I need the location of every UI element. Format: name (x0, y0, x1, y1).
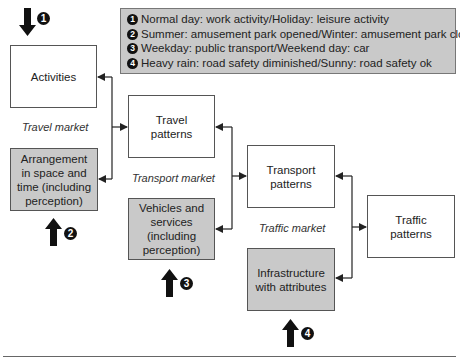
influence-arrow-1 (19, 8, 36, 36)
diagram-canvas: 1 2 3 4 1Normal day: work activity/Holid… (0, 0, 460, 362)
transport-patterns-box: Transport patterns (247, 145, 335, 208)
legend-item-2: 2Summer: amusement park opened/Winter: a… (127, 27, 449, 42)
influence-number-4: 4 (301, 327, 314, 340)
travel-market-label: Travel market (22, 121, 88, 133)
bottom-rule (3, 356, 456, 357)
traffic-patterns-box: Traffic patterns (367, 195, 455, 258)
traffic-market-label: Traffic market (259, 222, 325, 234)
infrastructure-box: Infrastructure with attributes (247, 248, 335, 311)
legend-item-3: 3Weekday: public transport/Weekend day: … (127, 41, 449, 56)
vehicles-services-box: Vehicles and services (including percept… (128, 198, 215, 260)
legend-item-4: 4Heavy rain: road safety diminished/Sunn… (127, 56, 449, 71)
legend-item-1: 1Normal day: work activity/Holiday: leis… (127, 12, 449, 27)
activities-box: Activities (10, 45, 97, 108)
arrangement-box: Arrangement in space and time (including… (10, 148, 98, 211)
transport-market-label: Transport market (132, 172, 215, 184)
travel-patterns-box: Travel patterns (128, 95, 215, 158)
influence-number-1: 1 (37, 12, 50, 25)
influence-number-3: 3 (180, 277, 193, 290)
influence-number-2: 2 (64, 227, 77, 240)
legend-box: 1Normal day: work activity/Holiday: leis… (120, 8, 456, 74)
